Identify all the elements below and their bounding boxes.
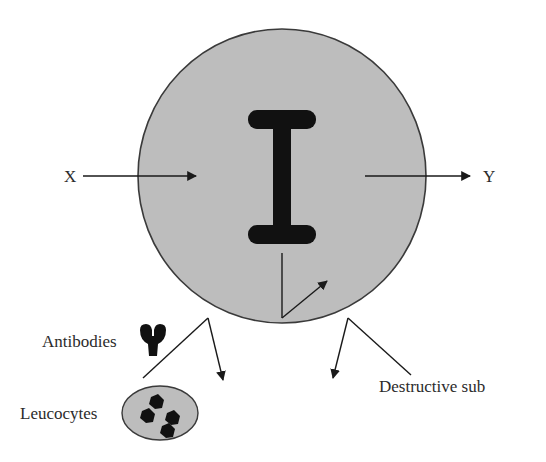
label-y: Y bbox=[483, 168, 495, 185]
label-antibodies: Antibodies bbox=[42, 333, 117, 350]
left-v-arrow bbox=[208, 318, 223, 380]
label-x: X bbox=[64, 168, 76, 185]
label-leucocytes: Leucocytes bbox=[20, 405, 97, 422]
right-v-arrow bbox=[333, 318, 348, 378]
antibody-icon bbox=[140, 324, 166, 356]
label-destructive-sub: Destructive sub bbox=[379, 378, 485, 395]
right-v-line bbox=[348, 318, 411, 375]
leucocyte-icon bbox=[122, 386, 198, 440]
